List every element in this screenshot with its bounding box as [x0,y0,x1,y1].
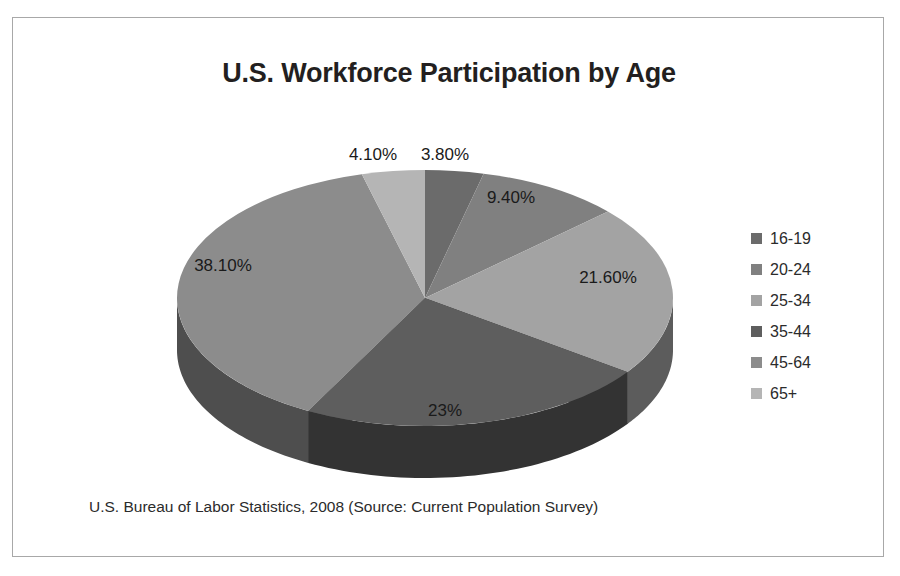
legend-label: 16-19 [770,230,811,248]
pie-chart-area: 3.80% 9.40% 21.60% 23% 38.10% 4.10% [33,113,733,493]
slice-label-45-64: 38.10% [194,256,252,275]
chart-footnote: U.S. Bureau of Labor Statistics, 2008 (S… [89,498,598,516]
legend-swatch-icon [751,388,762,399]
slice-label-35-44: 23% [428,401,462,420]
legend-item-25-34[interactable]: 25-34 [751,285,871,316]
legend-swatch-icon [751,326,762,337]
legend-label: 65+ [770,385,797,403]
legend-label: 25-34 [770,292,811,310]
pie-chart-svg: 3.80% 9.40% 21.60% 23% 38.10% 4.10% [33,113,733,493]
slice-label-16-19: 3.80% [421,145,469,164]
legend-item-20-24[interactable]: 20-24 [751,254,871,285]
legend-item-35-44[interactable]: 35-44 [751,316,871,347]
legend-swatch-icon [751,357,762,368]
slice-label-65plus: 4.10% [349,145,397,164]
legend-swatch-icon [751,295,762,306]
chart-page: U.S. Workforce Participation by Age 3.80… [0,0,900,576]
page-title: U.S. Workforce Participation by Age [13,58,885,89]
legend-label: 45-64 [770,354,811,372]
chart-legend: 16-19 20-24 25-34 35-44 45-64 65+ [751,223,871,409]
legend-label: 35-44 [770,323,811,341]
legend-item-45-64[interactable]: 45-64 [751,347,871,378]
legend-item-65plus[interactable]: 65+ [751,378,871,409]
legend-swatch-icon [751,233,762,244]
legend-label: 20-24 [770,261,811,279]
chart-frame: U.S. Workforce Participation by Age 3.80… [12,17,884,557]
pie-geometry [177,170,673,478]
legend-swatch-icon [751,264,762,275]
slice-label-20-24: 9.40% [487,188,535,207]
slice-label-25-34: 21.60% [579,268,637,287]
legend-item-16-19[interactable]: 16-19 [751,223,871,254]
